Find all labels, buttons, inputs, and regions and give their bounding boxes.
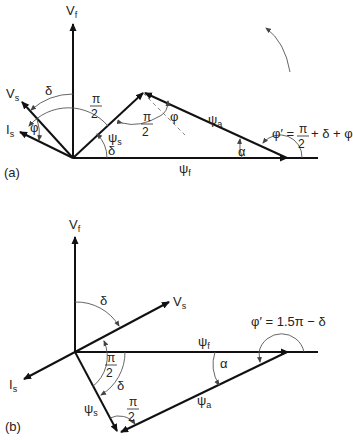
phi-prime-equation-a: φ′ = π 2 + δ + φ <box>272 122 353 151</box>
svg-text:π: π <box>129 395 137 409</box>
psi-a-label-a: ψa <box>208 112 222 129</box>
vf-label-b: Vf <box>69 217 81 234</box>
svg-text:π: π <box>92 92 100 106</box>
is-label-b: Is <box>9 377 18 394</box>
phasor-diagram: Vf Vs Is ψs ψa ψf δ δ φ φ α π 2 π 2 φ′ =… <box>0 0 353 440</box>
delta-arc-bottom-a <box>97 134 107 158</box>
alpha-label-a: α <box>238 144 246 159</box>
half-pi-label-2-a: π 2 <box>141 110 153 139</box>
svg-text:2: 2 <box>128 410 135 424</box>
delta-top-label-a: δ <box>45 83 52 98</box>
is-vector-b <box>24 352 75 379</box>
delta-top-label-b: δ <box>100 293 107 308</box>
half-pi-arc-left-b <box>92 341 107 387</box>
svg-text:2: 2 <box>142 125 149 139</box>
psi-a-label-b: ψa <box>197 393 211 410</box>
half-pi-arc-right-a <box>122 116 160 124</box>
is-label-a: Is <box>6 122 15 139</box>
phi-right-label-a: φ <box>170 109 178 124</box>
vs-vector-b <box>75 302 169 352</box>
psi-a-vector-b <box>121 352 287 432</box>
panel-b-label: (b) <box>5 419 21 434</box>
is-vector-a <box>20 132 73 158</box>
rotation-arrow-icon <box>266 28 290 72</box>
delta-bottom-label-b: δ <box>117 378 124 393</box>
psi-s-label-b: ψs <box>84 401 98 418</box>
psi-f-label-b: ψf <box>198 334 210 351</box>
svg-text:+ δ + φ: + δ + φ <box>311 126 353 141</box>
phi-prime-arc-b <box>259 334 304 362</box>
vs-label-a: Vs <box>6 86 20 103</box>
svg-text:2: 2 <box>91 107 98 121</box>
svg-text:π: π <box>143 110 151 124</box>
vs-label-b: Vs <box>173 294 187 311</box>
panel-a-label: (a) <box>4 165 20 180</box>
delta-bottom-label-a: δ <box>108 143 115 158</box>
svg-text:2: 2 <box>298 137 305 151</box>
alpha-label-b: α <box>220 356 228 371</box>
phi-left-label-a: φ <box>30 120 38 135</box>
svg-text:φ′ =: φ′ = <box>272 126 294 141</box>
panel-b: Vf Vs Is ψs ψa ψf δ δ α π 2 π 2 φ′ = 1.5… <box>5 217 326 434</box>
phi-prime-equation-b: φ′ = 1.5π − δ <box>251 314 326 329</box>
half-pi-label-1-b: π 2 <box>105 351 117 380</box>
alpha-arc-b <box>213 352 219 385</box>
vf-label-a: Vf <box>66 3 78 20</box>
half-pi-label-2-b: π 2 <box>127 395 139 424</box>
half-pi-label-1-a: π 2 <box>90 92 102 121</box>
panel-a: Vf Vs Is ψs ψa ψf δ δ φ φ α π 2 π 2 φ′ =… <box>4 3 353 180</box>
svg-text:π: π <box>107 351 115 365</box>
svg-text:π: π <box>299 122 307 136</box>
psi-f-label-a: ψf <box>179 161 191 178</box>
svg-text:2: 2 <box>106 366 113 380</box>
delta-arc-top-b <box>75 302 119 326</box>
